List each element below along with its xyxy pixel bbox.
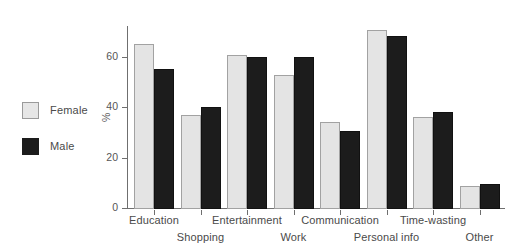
category-label-time-wasting: Time-wasting — [400, 214, 466, 226]
category-label-communication: Communication — [301, 214, 379, 226]
category-label-education: Education — [129, 214, 179, 226]
x-tick-1 — [201, 210, 202, 215]
legend-item-female: Female — [22, 96, 112, 124]
bar-male-shopping — [201, 107, 221, 209]
bar-female-education — [134, 44, 154, 209]
bar-male-other — [480, 184, 500, 209]
legend-item-male: Male — [22, 132, 112, 160]
bar-chart-figure: Female Male % 0204060 EducationShoppingE… — [0, 0, 521, 250]
y-tick-label-60: 60 — [106, 50, 118, 62]
category-label-other: Other — [465, 231, 493, 243]
bar-group — [413, 19, 453, 209]
y-tick-0: 0 — [122, 208, 127, 209]
male-swatch-icon — [22, 138, 39, 155]
bar-female-personal-info — [367, 30, 387, 209]
bar-group — [460, 19, 500, 209]
bar-male-education — [154, 69, 174, 209]
chart-legend: Female Male — [22, 96, 112, 168]
bar-group — [320, 19, 360, 209]
category-label-personal-info: Personal info — [354, 231, 420, 243]
y-tick-60: 60 — [122, 57, 127, 58]
bar-group — [367, 19, 407, 209]
y-tick-label-40: 40 — [106, 100, 118, 112]
legend-label-male: Male — [50, 140, 75, 152]
bar-male-communication — [340, 131, 360, 209]
plot-area: 0204060 — [127, 20, 505, 210]
bar-group — [274, 19, 314, 209]
bar-female-communication — [320, 122, 340, 209]
bar-group — [134, 19, 174, 209]
bar-male-work — [294, 57, 314, 209]
category-label-entertainment: Entertainment — [212, 214, 282, 226]
y-axis-line — [127, 26, 128, 209]
bar-group — [227, 19, 267, 209]
bar-female-entertainment — [227, 55, 247, 209]
y-tick-40: 40 — [122, 107, 127, 108]
bar-female-other — [460, 186, 480, 209]
y-tick-label-20: 20 — [106, 151, 118, 163]
x-tick-7 — [480, 210, 481, 215]
female-swatch-icon — [22, 102, 39, 119]
y-tick-20: 20 — [122, 158, 127, 159]
category-label-work: Work — [281, 231, 307, 243]
bar-female-time-wasting — [413, 117, 433, 209]
x-tick-3 — [294, 210, 295, 215]
bar-male-entertainment — [247, 57, 267, 209]
bar-male-personal-info — [387, 36, 407, 209]
bar-group — [181, 19, 221, 209]
y-tick-label-0: 0 — [112, 201, 118, 213]
category-label-shopping: Shopping — [177, 231, 224, 243]
x-tick-5 — [387, 210, 388, 215]
bar-male-time-wasting — [433, 112, 453, 209]
bar-female-shopping — [181, 115, 201, 210]
bar-female-work — [274, 75, 294, 209]
legend-label-female: Female — [50, 104, 88, 116]
y-axis-title: % — [100, 113, 112, 122]
